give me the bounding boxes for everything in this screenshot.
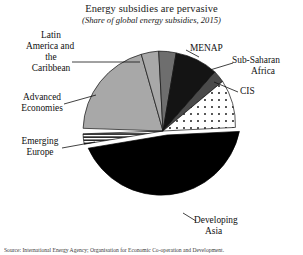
- pie-chart-figure: Energy subsidies are pervasive (Share of…: [0, 0, 303, 255]
- label-sub-saharan-africa-line1: Sub-Saharan: [232, 55, 280, 66]
- label-developing-asia-line1: Developing: [194, 215, 238, 226]
- label-emerging-europe-line1: Emerging: [0, 136, 80, 147]
- label-latin-america-line1: Latin: [8, 30, 94, 41]
- source-note: Source: International Energy Agency; Org…: [4, 247, 302, 254]
- label-sub-saharan-africa-line2: Africa: [232, 66, 294, 77]
- slice-developing-asia: [88, 131, 239, 195]
- label-developing-asia-line2: Asia: [205, 226, 222, 237]
- label-latin-america-line2: America and: [0, 41, 100, 52]
- label-latin-america-line4: Caribbean: [8, 63, 94, 74]
- label-advanced-economies-line1: Advanced: [2, 92, 82, 103]
- label-advanced-economies-line2: Economies: [0, 103, 84, 114]
- label-menap: MENAP: [190, 43, 223, 54]
- label-emerging-europe-line2: Europe: [0, 147, 80, 158]
- label-cis: CIS: [240, 86, 255, 97]
- label-latin-america-line3: the: [8, 52, 94, 63]
- leader-line-sub-saharan-africa: [210, 63, 233, 70]
